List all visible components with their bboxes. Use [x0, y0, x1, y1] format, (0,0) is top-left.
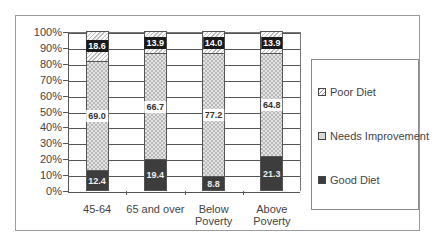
x-tick: [243, 191, 244, 195]
bar-65-and-over: 19.466.713.9: [144, 32, 167, 191]
y-tick: [63, 80, 68, 81]
y-tick: [63, 32, 68, 33]
bar-segment-poor: 18.6: [86, 31, 109, 62]
poor-diet-swatch-icon: [318, 88, 326, 96]
value-label: 13.9: [261, 37, 283, 49]
y-tick: [63, 48, 68, 49]
legend-item-poor-diet: Poor Diet: [318, 86, 376, 98]
bar-segment-good: 8.8: [202, 176, 225, 191]
y-tick: [63, 175, 68, 176]
bar-segment-needs: 77.2: [202, 53, 225, 177]
y-tick-label: 70%: [20, 75, 62, 86]
bar-segment-good: 21.3: [260, 156, 283, 191]
y-tick-label: 20%: [20, 154, 62, 165]
y-tick: [63, 96, 68, 97]
value-label: 77.2: [203, 109, 225, 121]
value-label: 64.8: [261, 99, 283, 111]
bar-segment-poor: 13.9: [260, 31, 283, 54]
legend-label: Poor Diet: [330, 86, 376, 98]
y-tick: [63, 64, 68, 65]
legend-item-good-diet: Good Diet: [318, 174, 380, 186]
bar-below-poverty: 8.877.214.0: [202, 32, 225, 191]
x-tick: [185, 191, 186, 195]
y-tick: [63, 159, 68, 160]
value-label: 8.8: [205, 178, 222, 190]
legend-item-needs-improvement: Needs Improvement: [318, 130, 429, 142]
bar-segment-poor: 14.0: [202, 31, 225, 54]
legend: Poor Diet Needs Improvement Good Diet: [311, 59, 419, 210]
value-label: 13.9: [145, 37, 167, 49]
value-label: 21.3: [261, 168, 283, 180]
y-tick-label: 30%: [20, 138, 62, 149]
y-tick-label: 40%: [20, 122, 62, 133]
y-tick-label: 0%: [20, 186, 62, 197]
bar-segment-good: 12.4: [86, 170, 109, 191]
y-tick-label: 90%: [20, 43, 62, 54]
y-tick: [63, 127, 68, 128]
value-label: 12.4: [86, 175, 108, 187]
y-tick-label: 10%: [20, 170, 62, 181]
y-tick: [63, 143, 68, 144]
y-tick-label: 80%: [20, 59, 62, 70]
y-tick: [63, 112, 68, 113]
bar-above-poverty: 21.364.813.9: [260, 32, 283, 191]
legend-label: Needs Improvement: [330, 130, 429, 142]
value-label: 19.4: [145, 169, 167, 181]
bar-segment-needs: 64.8: [260, 53, 283, 157]
value-label: 66.7: [145, 101, 167, 113]
y-tick-label: 100%: [20, 27, 62, 38]
good-diet-swatch-icon: [318, 176, 326, 184]
y-tick-label: 60%: [20, 91, 62, 102]
needs-improvement-swatch-icon: [318, 132, 326, 140]
bar-segment-needs: 66.7: [144, 53, 167, 160]
y-tick: [63, 191, 68, 192]
bar-segment-poor: 13.9: [144, 31, 167, 54]
x-tick: [126, 191, 127, 195]
value-label: 14.0: [203, 37, 225, 49]
x-tick-label: AbovePoverty: [237, 203, 307, 227]
bar-segment-needs: 69.0: [86, 61, 109, 172]
y-tick-label: 50%: [20, 107, 62, 118]
bar-45-64: 12.469.018.6: [86, 32, 109, 191]
value-label: 18.6: [86, 40, 108, 52]
value-label: 69.0: [86, 110, 108, 122]
y-axis: [68, 32, 69, 192]
bar-segment-good: 19.4: [144, 159, 167, 191]
legend-label: Good Diet: [330, 174, 380, 186]
